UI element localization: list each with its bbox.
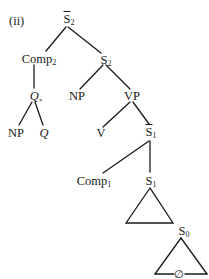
node-np-upper: NP bbox=[69, 90, 85, 102]
node-sbar1-base: S bbox=[146, 125, 153, 139]
node-qstar-base: Q bbox=[30, 89, 39, 103]
node-s2-base: S bbox=[101, 53, 108, 67]
edge-s2-vp bbox=[106, 65, 130, 89]
edge-vp-v bbox=[103, 102, 130, 127]
edge-s2-np bbox=[80, 65, 103, 89]
node-np-lower: NP bbox=[8, 127, 24, 139]
node-v: V bbox=[96, 127, 105, 139]
edge-s1bar-comp1 bbox=[103, 141, 149, 173]
node-q-lower: Q bbox=[39, 127, 48, 139]
node-comp1: Comp1 bbox=[77, 175, 112, 187]
node-qstar-sub: * bbox=[39, 97, 43, 105]
node-s2: S2 bbox=[101, 54, 112, 66]
node-qstar: Q* bbox=[30, 90, 43, 107]
node-sbar2-base: S bbox=[64, 12, 71, 26]
node-s1-base: S bbox=[146, 174, 153, 188]
node-comp2-base: Comp bbox=[22, 52, 53, 66]
edge-root-comp2 bbox=[46, 27, 66, 51]
node-s0-base: S bbox=[179, 224, 186, 238]
example-label: (ii) bbox=[9, 15, 24, 27]
node-sbar1-sub: 1 bbox=[152, 131, 156, 140]
node-vp: VP bbox=[124, 90, 140, 102]
node-s2-sub: 2 bbox=[107, 59, 111, 68]
node-s1-sub: 1 bbox=[152, 180, 156, 189]
node-comp2: Comp2 bbox=[22, 53, 57, 65]
s1-triangle bbox=[126, 188, 173, 223]
node-s0: S0 bbox=[179, 225, 190, 237]
node-sbar2-sub: 2 bbox=[70, 18, 74, 27]
node-comp2-sub: 2 bbox=[52, 58, 56, 67]
node-empty-set: ∅ bbox=[174, 268, 184, 279]
node-sbar2: S2 bbox=[64, 13, 75, 25]
node-s0-sub: 0 bbox=[185, 230, 189, 239]
s0-triangle-right bbox=[181, 238, 207, 274]
node-sbar1: S1 bbox=[146, 126, 157, 138]
node-comp1-base: Comp bbox=[77, 174, 108, 188]
node-comp1-sub: 1 bbox=[107, 180, 111, 189]
edge-root-s2 bbox=[68, 27, 101, 53]
edge-vp-s1bar bbox=[133, 102, 149, 124]
node-s1: S1 bbox=[146, 175, 157, 187]
